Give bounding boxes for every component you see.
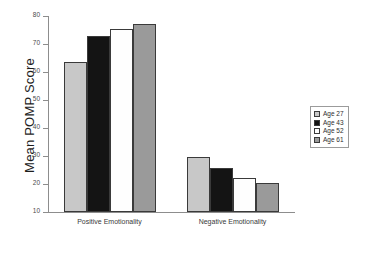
legend-swatch-icon — [314, 128, 320, 134]
y-axis-tick-label: 20 — [33, 179, 40, 186]
y-axis-tick-label: 10 — [33, 207, 40, 214]
legend-swatch-icon — [314, 120, 320, 126]
y-axis-tick-label: 70 — [33, 39, 40, 46]
x-axis-line — [48, 212, 295, 213]
bar — [110, 29, 133, 212]
bar — [133, 24, 156, 212]
bar — [87, 36, 110, 212]
legend-item-label: Age 43 — [323, 119, 344, 127]
legend-item-label: Age 61 — [323, 136, 344, 144]
legend-swatch-icon — [314, 111, 320, 117]
y-axis-tick: 20 — [43, 184, 48, 185]
y-axis-tick-label: 40 — [33, 123, 40, 130]
bar-chart-figure: Mean POMP Score 1020304050607080 Positiv… — [0, 0, 377, 259]
y-axis-tick: 30 — [43, 156, 48, 157]
legend: Age 27Age 43Age 52Age 61 — [310, 106, 349, 148]
y-axis-tick: 40 — [43, 128, 48, 129]
y-axis-line — [48, 16, 49, 212]
y-axis-title: Mean POMP Score — [22, 41, 37, 191]
x-axis-category-label: Positive Emotionality — [77, 218, 142, 225]
bar — [210, 168, 233, 212]
y-axis-tick: 70 — [43, 44, 48, 45]
legend-item: Age 27 — [314, 110, 344, 119]
y-axis-tick-label: 30 — [33, 151, 40, 158]
legend-item-label: Age 27 — [323, 110, 344, 118]
y-axis-tick: 60 — [43, 72, 48, 73]
bar — [256, 183, 279, 212]
legend-item-label: Age 52 — [323, 127, 344, 135]
legend-item: Age 43 — [314, 119, 344, 128]
x-axis-category-label: Negative Emotionality — [199, 218, 267, 225]
legend-item: Age 52 — [314, 127, 344, 136]
y-axis-tick-label: 60 — [33, 67, 40, 74]
y-axis-tick: 80 — [43, 16, 48, 17]
y-axis-tick-label: 80 — [33, 11, 40, 18]
bar — [233, 178, 256, 212]
y-axis-tick: 50 — [43, 100, 48, 101]
legend-swatch-icon — [314, 137, 320, 143]
plot-area: 1020304050607080 Positive EmotionalityNe… — [48, 16, 294, 212]
legend-item: Age 61 — [314, 136, 344, 145]
bar — [187, 157, 210, 212]
bar — [64, 62, 87, 212]
y-axis-tick: 10 — [43, 212, 48, 213]
y-axis-tick-label: 50 — [33, 95, 40, 102]
